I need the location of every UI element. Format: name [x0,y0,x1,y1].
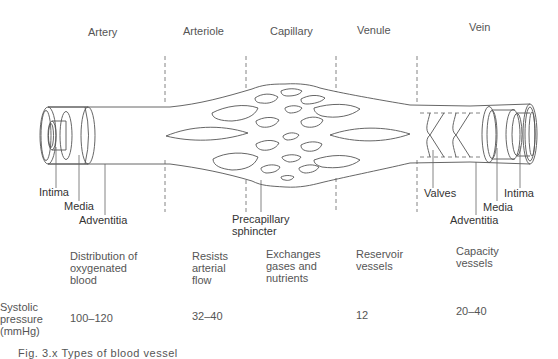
pressure-venule: 12 [356,310,368,321]
vein-adventitia-label: Adventitia [450,215,498,226]
function-capillary: Exchanges gases and nutrients [266,248,320,284]
segment-label-vein: Vein [469,22,490,33]
function-arteriole: Resists arterial flow [192,250,228,286]
artery-adventitia-label: Adventitia [79,215,127,226]
capillary-network [166,89,410,181]
vessel-outline-bottom [48,162,470,187]
pressure-artery: 100–120 [70,313,113,324]
segment-label-venule: Venule [357,25,391,36]
segment-label-arteriole: Arteriole [183,26,224,37]
systolic-pressure-row-label: Systolic pressure (mmHg) [0,301,43,337]
segment-label-artery: Artery [88,27,117,38]
artery-intima-label: Intima [39,187,69,198]
function-venule: Reservoir vessels [356,248,403,272]
function-artery: Distribution of oxygenated blood [70,250,137,286]
vein-cylinder [470,104,537,164]
vein-media-label: Media [483,202,513,213]
vein-valves-label: Valves [424,188,456,199]
function-vein: Capacity vessels [456,245,499,269]
vein-valves [420,113,480,157]
segment-label-capillary: Capillary [270,26,313,37]
artery-cylinder [40,107,95,164]
pressure-arteriole: 32–40 [192,311,223,322]
figure-caption: Fig. 3.x Types of blood vessel [18,347,178,359]
vein-intima-label: Intima [504,188,534,199]
segment-dividers [165,56,417,212]
precapillary-sphincter-label: Precapillary sphincter [232,213,289,237]
pressure-vein: 20–40 [456,306,487,317]
artery-media-label: Media [64,201,94,212]
